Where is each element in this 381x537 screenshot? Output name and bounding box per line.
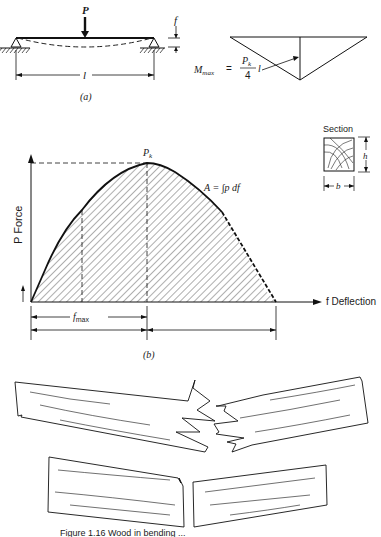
span-symbol: l [83,69,86,81]
load-symbol: P [82,4,89,16]
figure-caption: Figure 1.16 Wood in bending ... [60,528,185,537]
fmax-label: fmax [73,311,90,323]
svg-text:=: = [226,63,232,74]
section-height: h [363,151,368,161]
broken-wood-illustration [15,377,368,527]
section-title: Section [323,124,353,134]
x-axis-label: f Deflection [326,296,376,307]
force-deflection-chart [21,154,322,340]
deflection-symbol: f [174,14,179,26]
moment-numerator: Pk [241,55,252,68]
moment-tail: l [258,63,261,74]
section-width: b [336,181,341,191]
beam-diagram [0,17,180,80]
moment-denominator: 4 [245,70,251,81]
panel-a-label: (a) [80,91,92,103]
panel-b-label: (b) [143,349,155,361]
peak-label: Pk [142,147,153,160]
moment-label: Mmax [193,64,215,77]
y-axis-label: P Force [12,206,24,244]
figure-canvas: P f l (a) Mmax = Pk 4 l [0,0,381,537]
section-diagram [324,137,370,191]
area-label: A = ∫p df [203,182,241,194]
